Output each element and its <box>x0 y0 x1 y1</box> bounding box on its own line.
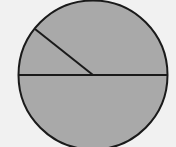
divided-circle-figure <box>0 0 176 147</box>
diagram-canvas: Gray-filled circle divided by a horizont… <box>0 0 176 147</box>
